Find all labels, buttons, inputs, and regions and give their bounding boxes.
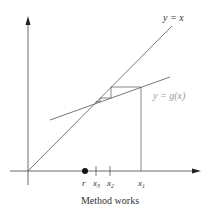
root-point [82, 168, 88, 174]
x1-subscript: 1 [142, 183, 145, 189]
cobweb-path [96, 87, 141, 171]
x3-label: x3 [92, 178, 100, 189]
figure-caption: Method works [81, 195, 139, 206]
y-axis [26, 16, 31, 185]
x3-subscript: 3 [96, 183, 100, 189]
g-label: y = g(x) [152, 90, 186, 102]
cobweb-diagram: y = x y = g(x) r x3 x2 x1 Method works [0, 0, 208, 211]
g-line [50, 77, 170, 120]
y-axis-arrow-icon [26, 16, 31, 25]
x-axis [10, 169, 201, 174]
x2-subscript: 2 [111, 183, 114, 189]
identity-label: y = x [162, 12, 184, 23]
r-label: r [82, 178, 86, 188]
x1-label: x1 [137, 178, 145, 189]
x-axis-arrow-icon [192, 169, 201, 174]
x2-label: x2 [106, 178, 114, 189]
